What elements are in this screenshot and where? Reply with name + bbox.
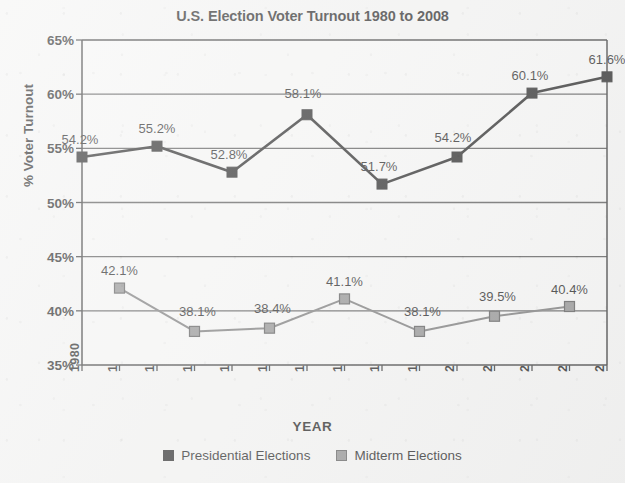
data-point-label: 38.4% — [254, 301, 291, 316]
y-axis-ticks — [76, 40, 82, 365]
data-point-marker[interactable] — [377, 179, 387, 189]
data-point-marker[interactable] — [490, 311, 500, 321]
data-point-marker[interactable] — [302, 110, 312, 120]
legend-entry[interactable]: Midterm Elections — [336, 448, 461, 463]
data-point-marker[interactable] — [527, 88, 537, 98]
data-point-label: 51.7% — [361, 159, 398, 174]
x-axis-ticks — [82, 365, 607, 371]
data-point-label: 39.5% — [479, 289, 516, 304]
data-point-marker[interactable] — [340, 294, 350, 304]
data-point-marker[interactable] — [602, 72, 612, 82]
data-point-marker[interactable] — [77, 152, 87, 162]
legend-entry[interactable]: Presidential Elections — [163, 448, 310, 463]
chart-figure: U.S. Election Voter Turnout 1980 to 2008… — [0, 0, 625, 483]
legend-swatch-presidential-icon — [163, 450, 174, 461]
data-point-label: 38.1% — [404, 304, 441, 319]
data-point-label: 41.1% — [326, 274, 363, 289]
data-point-marker[interactable] — [227, 167, 237, 177]
data-point-label: 55.2% — [139, 121, 176, 136]
data-point-marker[interactable] — [415, 326, 425, 336]
data-point-label: 61.6% — [589, 52, 625, 67]
data-point-label: 38.1% — [179, 304, 216, 319]
data-point-marker[interactable] — [452, 152, 462, 162]
data-point-marker[interactable] — [190, 326, 200, 336]
chart-legend: Presidential ElectionsMidterm Elections — [0, 448, 625, 463]
data-point-marker[interactable] — [265, 323, 275, 333]
data-point-label: 52.8% — [211, 147, 248, 162]
legend-swatch-midterm-icon — [336, 450, 347, 461]
data-point-marker[interactable] — [565, 302, 575, 312]
data-point-label: 54.2% — [435, 130, 472, 145]
legend-label: Midterm Elections — [354, 448, 461, 463]
legend-label: Presidential Elections — [181, 448, 310, 463]
data-point-marker[interactable] — [115, 283, 125, 293]
data-point-label: 58.1% — [285, 86, 322, 101]
data-point-label: 40.4% — [551, 282, 588, 297]
data-point-label: 42.1% — [101, 263, 138, 278]
data-point-label: 60.1% — [512, 68, 549, 83]
data-point-label: 54.2% — [62, 132, 99, 147]
data-point-marker[interactable] — [152, 141, 162, 151]
